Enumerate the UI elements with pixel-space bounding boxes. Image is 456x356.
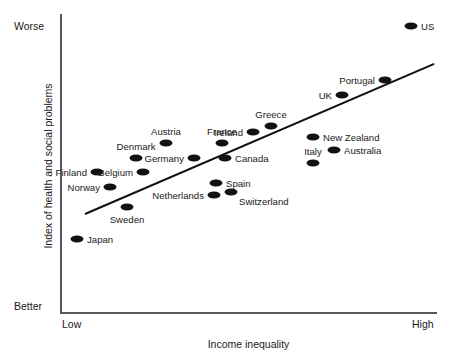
- point-label-us: US: [421, 21, 434, 32]
- point-label-uk: UK: [319, 90, 332, 101]
- data-point-italy: [307, 160, 320, 167]
- data-point-ireland: [247, 129, 260, 136]
- x-axis-tick-low: Low: [62, 318, 81, 330]
- y-axis-label: Index of health and social problems: [42, 66, 54, 266]
- data-point-new-zealand: [307, 134, 320, 141]
- data-point-switzerland: [225, 189, 238, 196]
- point-label-belgium: Belgium: [98, 167, 133, 178]
- point-label-japan: Japan: [87, 234, 113, 245]
- data-point-sweden: [121, 204, 134, 211]
- data-point-belgium: [137, 169, 150, 176]
- point-label-italy: Italy: [304, 146, 322, 157]
- data-point-canada: [219, 155, 232, 162]
- point-label-austria: Austria: [151, 126, 181, 137]
- data-point-us: [405, 23, 418, 30]
- point-label-switzerland: Switzerland: [239, 196, 289, 207]
- data-point-france: [216, 140, 229, 147]
- point-label-portugal: Portugal: [339, 75, 375, 86]
- point-label-new-zealand: New Zealand: [323, 132, 380, 143]
- data-point-austria: [160, 140, 173, 147]
- point-label-sweden: Sweden: [110, 214, 145, 225]
- y-axis-tick-worse: Worse: [14, 20, 44, 32]
- x-axis-tick-high: High: [412, 318, 434, 330]
- data-point-portugal: [379, 77, 392, 84]
- point-label-norway: Norway: [67, 182, 100, 193]
- y-axis-tick-better: Better: [14, 300, 42, 312]
- point-label-australia: Australia: [344, 145, 381, 156]
- data-point-uk: [336, 92, 349, 99]
- data-point-australia: [328, 147, 341, 154]
- data-point-germany: [188, 155, 201, 162]
- scatter-chart: Index of health and social problems Inco…: [0, 0, 456, 356]
- data-point-spain: [210, 180, 223, 187]
- y-axis-line: [60, 14, 62, 314]
- data-point-greece: [265, 123, 278, 130]
- x-axis-label: Income inequality: [60, 338, 437, 350]
- data-point-netherlands: [208, 192, 221, 199]
- data-point-japan: [71, 236, 84, 243]
- data-point-denmark: [130, 155, 143, 162]
- trend-line: [85, 63, 435, 215]
- point-label-greece: Greece: [255, 109, 286, 120]
- point-label-netherlands: Netherlands: [152, 190, 204, 201]
- point-label-france: France: [207, 126, 237, 137]
- point-label-denmark: Denmark: [117, 141, 156, 152]
- x-axis-line: [60, 312, 437, 314]
- point-label-finland: Finland: [56, 167, 87, 178]
- data-point-norway: [104, 184, 117, 191]
- point-label-canada: Canada: [235, 153, 269, 164]
- point-label-germany: Germany: [145, 153, 184, 164]
- point-label-spain: Spain: [226, 178, 251, 189]
